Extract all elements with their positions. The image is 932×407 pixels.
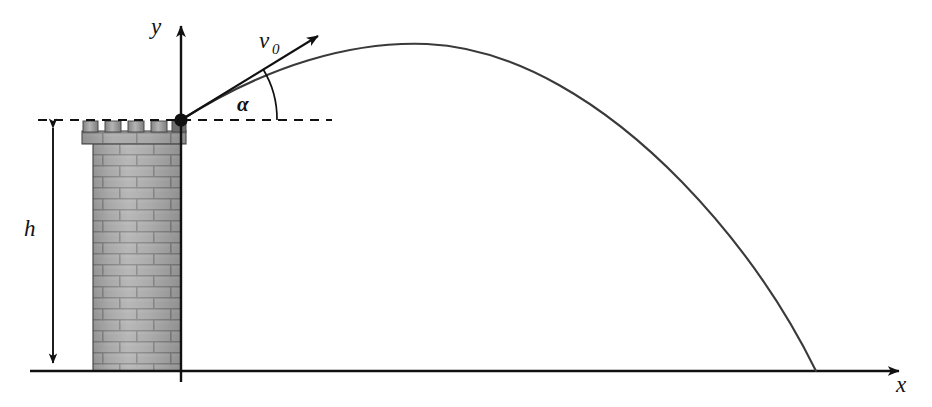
- trajectory-curve: [181, 44, 816, 371]
- tower: [82, 121, 186, 371]
- velocity-label: v 0: [259, 28, 280, 57]
- x-axis-label: x: [895, 372, 907, 397]
- velocity-subscript: 0: [272, 41, 280, 57]
- tower-body: [93, 143, 181, 371]
- velocity-symbol: v: [259, 28, 270, 53]
- velocity-vector: [181, 36, 318, 120]
- y-axis-label: y: [149, 14, 162, 39]
- tower-cap: [82, 131, 186, 144]
- height-label: h: [24, 216, 36, 241]
- projectile-motion-diagram: y x h v 0 α: [0, 0, 932, 407]
- angle-label: α: [237, 92, 249, 116]
- launch-point-marker: [174, 113, 187, 126]
- tower-merlons: [83, 121, 186, 132]
